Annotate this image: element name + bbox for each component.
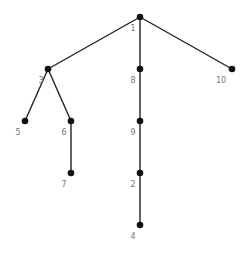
node-5: [22, 118, 29, 125]
labels-layer: 13810569724: [15, 24, 226, 241]
node-2: [137, 170, 144, 177]
node-3: [45, 66, 52, 73]
node-9: [137, 118, 144, 125]
nodes-layer: [22, 14, 236, 229]
node-label-7: 7: [61, 180, 66, 189]
edge-1-3: [48, 17, 140, 69]
tree-diagram: 13810569724: [0, 0, 246, 255]
node-label-4: 4: [130, 232, 135, 241]
node-10: [229, 66, 236, 73]
edge-3-6: [48, 69, 71, 121]
edge-1-10: [140, 17, 232, 69]
node-label-6: 6: [61, 128, 66, 137]
node-7: [68, 170, 75, 177]
node-label-1: 1: [130, 24, 135, 33]
node-label-5: 5: [15, 128, 20, 137]
node-label-10: 10: [216, 76, 226, 85]
node-label-3: 3: [38, 76, 43, 85]
edge-3-5: [25, 69, 48, 121]
node-label-9: 9: [130, 128, 135, 137]
node-label-2: 2: [130, 180, 135, 189]
node-1: [137, 14, 144, 21]
node-6: [68, 118, 75, 125]
node-label-8: 8: [130, 76, 135, 85]
edges-layer: [25, 17, 232, 225]
node-4: [137, 222, 144, 229]
node-8: [137, 66, 144, 73]
